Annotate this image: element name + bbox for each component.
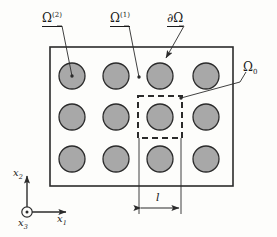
figure-canvas: Ω(2) Ω(1) ∂Ω Ω0 l x2 x1 x3 — [0, 0, 277, 237]
inclusion-circle — [59, 146, 85, 172]
inclusion-circle — [103, 63, 129, 89]
inclusion-circle — [193, 104, 219, 130]
inclusion-circle — [147, 146, 173, 172]
label-dimension-l: l — [156, 192, 160, 203]
label-boundary-domega: ∂Ω — [167, 12, 183, 24]
inclusion-circle — [103, 104, 129, 130]
label-omega-2: Ω(2) — [42, 12, 62, 24]
inclusion-circle — [193, 63, 219, 89]
axis-label-x3: x3 — [18, 218, 28, 231]
inclusion-circle — [193, 146, 219, 172]
axis-label-x1: x1 — [57, 214, 67, 227]
inclusion-circle — [59, 104, 85, 130]
inclusion-circle-unit-cell — [147, 104, 173, 130]
label-unit-cell-omega-0: Ω0 — [243, 61, 257, 76]
leader-boundary — [166, 26, 184, 58]
axis-x3-out-of-plane-dot — [26, 211, 29, 214]
diagram-svg — [0, 0, 277, 237]
coordinate-axes — [22, 176, 66, 217]
axis-label-x2: x2 — [13, 168, 23, 181]
inclusion-circle — [103, 146, 129, 172]
label-omega-1: Ω(1) — [110, 12, 130, 24]
inclusion-circle — [147, 63, 173, 89]
